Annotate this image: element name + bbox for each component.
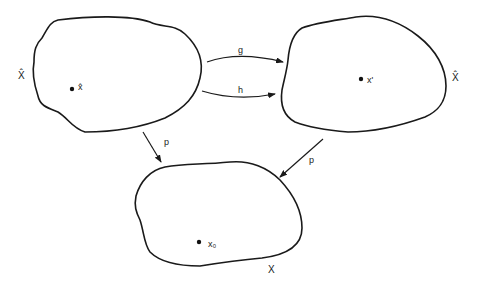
arrow-p-right-line xyxy=(280,139,323,177)
arrow-p-right-label: p xyxy=(309,155,314,165)
arrow-p-left-line xyxy=(143,132,161,162)
arrow-p-left-label: p xyxy=(164,137,169,147)
point-x-prime-dot xyxy=(359,77,363,81)
set-bottom-label: X xyxy=(268,264,275,275)
bottom-region-outline xyxy=(135,162,302,266)
set-bottom-x: x₀ X xyxy=(135,162,302,275)
point-x-hat-label: x̂ xyxy=(78,82,83,92)
arrow-g-line xyxy=(207,56,283,62)
arrow-p-left: p xyxy=(143,132,169,162)
point-x-hat-dot xyxy=(70,87,74,91)
set-right-label: X̂ xyxy=(452,70,459,83)
covering-space-diagram: x̂ X̂ x' X̂ x₀ X g h p p xyxy=(0,0,478,285)
point-x0-dot xyxy=(197,240,201,244)
set-left-x-hat: x̂ X̂ xyxy=(18,17,201,132)
arrow-p-right: p xyxy=(280,139,323,177)
arrow-g-label: g xyxy=(238,45,243,55)
set-right-x-hat: x' X̂ xyxy=(282,16,459,132)
arrow-h: h xyxy=(202,85,275,97)
set-left-label: X̂ xyxy=(18,68,25,81)
right-region-outline xyxy=(282,16,446,132)
arrow-h-label: h xyxy=(238,85,243,95)
arrow-g: g xyxy=(207,45,283,62)
point-x0-label: x₀ xyxy=(208,239,217,249)
point-x-prime-label: x' xyxy=(367,75,374,85)
left-region-outline xyxy=(33,17,201,132)
